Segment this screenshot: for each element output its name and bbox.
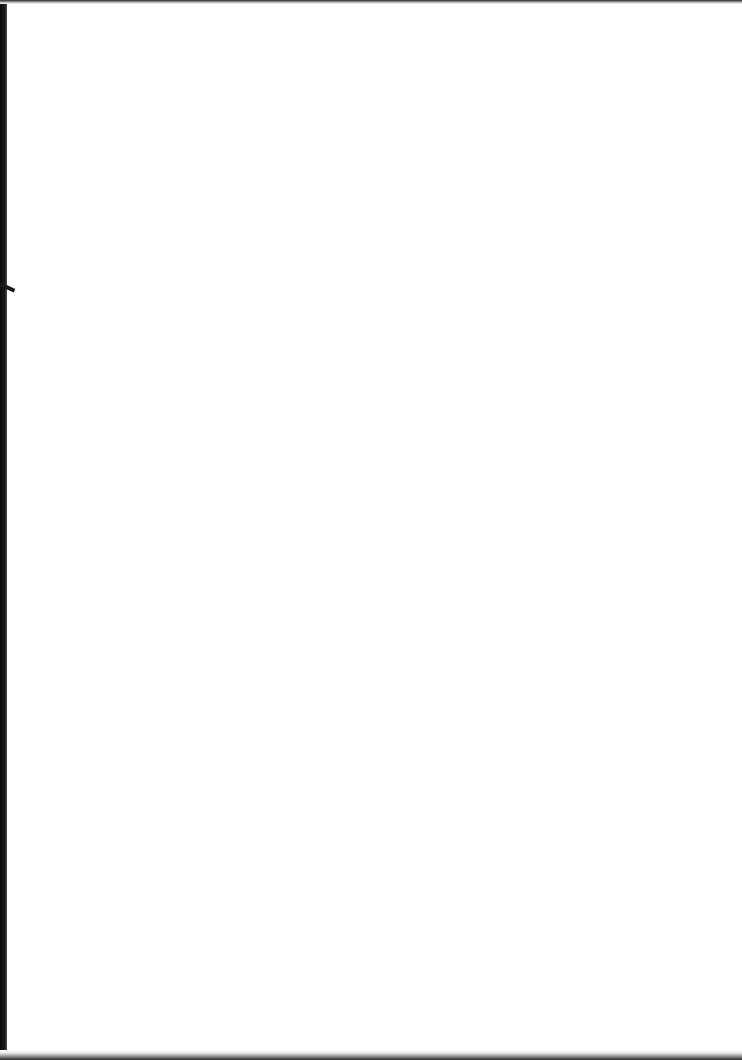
- blank-page: [7, 4, 742, 1050]
- scan-border-bottom: [0, 1050, 742, 1060]
- scan-border-top: [0, 0, 742, 4]
- scan-border-left: [0, 0, 7, 1060]
